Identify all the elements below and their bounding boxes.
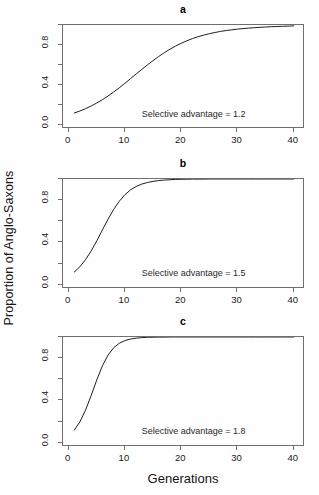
- plot-area-b: Selective advantage = 1.5: [62, 178, 304, 288]
- x-tick-label: 20: [168, 294, 192, 305]
- y-axis-title: Proportion of Anglo-Saxons: [0, 0, 18, 495]
- x-tick-mark: [180, 288, 181, 292]
- x-tick-label: 0: [56, 294, 80, 305]
- x-tick-label: 0: [56, 134, 80, 145]
- y-tick-label: 0.4: [36, 234, 54, 244]
- x-tick-mark: [68, 446, 69, 450]
- panel-title-a: a: [62, 3, 304, 15]
- y-tick-mark: [58, 84, 62, 85]
- y-tick-label: 0.8: [36, 37, 54, 47]
- y-tick-mark: [58, 241, 62, 242]
- data-curve: [74, 179, 293, 272]
- y-tick-mark: [58, 421, 62, 422]
- x-tick-label: 30: [224, 452, 248, 463]
- data-curve: [74, 26, 293, 113]
- annotation-selective-advantage: Selective advantage = 1.8: [142, 426, 246, 436]
- y-tick-label: 0.8: [36, 192, 54, 202]
- y-tick-mark: [58, 24, 62, 25]
- annotation-selective-advantage: Selective advantage = 1.5: [142, 268, 246, 278]
- y-tick-mark: [58, 44, 62, 45]
- y-tick-label: 0.0: [36, 117, 54, 127]
- x-tick-mark: [124, 288, 125, 292]
- y-tick-mark: [58, 357, 62, 358]
- data-curve: [74, 337, 293, 430]
- x-tick-mark: [293, 288, 294, 292]
- x-tick-mark: [236, 446, 237, 450]
- x-tick-label: 10: [112, 452, 136, 463]
- y-tick-label: 0.8: [36, 350, 54, 360]
- y-tick-mark: [58, 220, 62, 221]
- x-tick-mark: [180, 128, 181, 132]
- x-tick-mark: [180, 446, 181, 450]
- y-axis-title-text: Proportion of Anglo-Saxons: [2, 170, 16, 325]
- panel-title-c: c: [62, 315, 304, 327]
- y-tick-label: 0.0: [36, 277, 54, 287]
- y-tick-mark: [58, 104, 62, 105]
- plot-area-c: Selective advantage = 1.8: [62, 336, 304, 446]
- x-tick-mark: [124, 128, 125, 132]
- plot-area-a: Selective advantage = 1.2: [62, 24, 304, 128]
- x-tick-label: 40: [281, 452, 305, 463]
- x-tick-label: 20: [168, 134, 192, 145]
- x-tick-label: 30: [224, 294, 248, 305]
- x-tick-label: 20: [168, 452, 192, 463]
- y-tick-mark: [58, 263, 62, 264]
- y-tick-mark: [58, 178, 62, 179]
- y-tick-mark: [58, 124, 62, 125]
- x-tick-label: 10: [112, 134, 136, 145]
- y-tick-mark: [58, 378, 62, 379]
- x-tick-mark: [68, 128, 69, 132]
- y-tick-label: 0.0: [36, 435, 54, 445]
- x-tick-mark: [124, 446, 125, 450]
- figure-canvas: Proportion of Anglo-Saxons aSelective ad…: [0, 0, 319, 495]
- x-tick-mark: [293, 446, 294, 450]
- x-axis-title: Generations: [62, 471, 304, 486]
- y-tick-mark: [58, 284, 62, 285]
- x-tick-label: 0: [56, 452, 80, 463]
- x-tick-label: 30: [224, 134, 248, 145]
- x-tick-mark: [236, 288, 237, 292]
- y-tick-mark: [58, 199, 62, 200]
- y-tick-mark: [58, 399, 62, 400]
- x-tick-label: 40: [281, 134, 305, 145]
- x-tick-mark: [236, 128, 237, 132]
- y-tick-mark: [58, 336, 62, 337]
- panel-title-b: b: [62, 157, 304, 169]
- x-axis-title-text: Generations: [148, 471, 219, 486]
- y-tick-mark: [58, 64, 62, 65]
- x-tick-label: 40: [281, 294, 305, 305]
- y-tick-mark: [58, 442, 62, 443]
- x-tick-label: 10: [112, 294, 136, 305]
- annotation-selective-advantage: Selective advantage = 1.2: [142, 109, 246, 119]
- x-tick-mark: [293, 128, 294, 132]
- x-tick-mark: [68, 288, 69, 292]
- y-tick-label: 0.4: [36, 77, 54, 87]
- y-tick-label: 0.4: [36, 392, 54, 402]
